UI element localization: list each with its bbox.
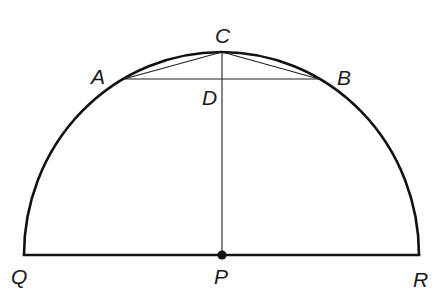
label-r: R [413,268,428,291]
label-p: P [214,265,228,288]
label-q: Q [11,265,27,288]
semicircle-diagram: C A B D Q P R [0,0,445,296]
label-a: A [89,65,105,88]
label-c: C [215,24,231,47]
label-d: D [202,86,217,109]
center-point-p [217,250,226,259]
segment-ca [124,52,222,79]
label-b: B [337,66,351,89]
segment-cb [222,52,319,79]
